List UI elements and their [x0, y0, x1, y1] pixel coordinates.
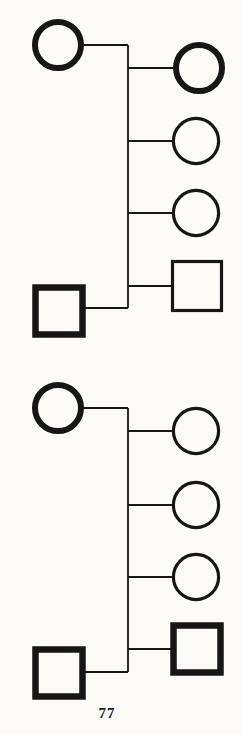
- pedigree-2-child-1-circle-symbol: [173, 408, 218, 453]
- pedigree-2-parent-male-square-symbol: [36, 650, 83, 697]
- pedigree-2-child-4-square-symbol: [174, 626, 221, 673]
- pedigree-2-child-2-circle-symbol: [173, 482, 218, 527]
- pedigree-2-parent-female-circle-symbol: [35, 385, 81, 431]
- pedigree-diagram: [0, 0, 242, 734]
- scanned-book-page: 77: [0, 0, 242, 734]
- pedigree-1-child-3-circle-symbol: [173, 190, 218, 235]
- pedigree-2-child-3-circle-symbol: [173, 554, 218, 599]
- page-number: 77: [87, 705, 127, 722]
- pedigree-1-child-2-circle-symbol: [173, 118, 218, 163]
- pedigree-1-parent-male-square-symbol: [36, 288, 83, 335]
- pedigree-1-parent-female-circle-symbol: [35, 22, 81, 68]
- pedigree-1-child-4-square-symbol: [173, 262, 222, 311]
- pedigree-1-child-1-circle-symbol: [176, 45, 222, 91]
